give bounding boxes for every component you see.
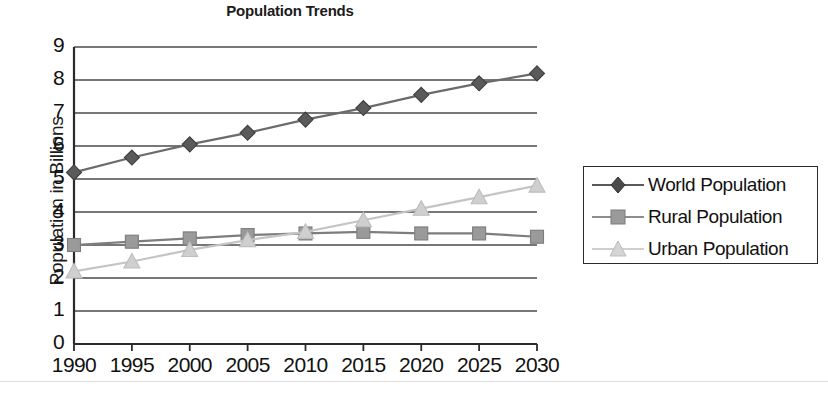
x-tick-label-1990: 1990 [44, 353, 104, 377]
legend-item-urban[interactable]: Urban Population [584, 233, 817, 265]
legend-item-rural[interactable]: Rural Population [584, 201, 817, 233]
data-point [529, 178, 545, 193]
legend-label-urban: Urban Population [648, 238, 788, 260]
y-tick-label-3: 3 [38, 231, 64, 255]
x-tick-label-2025: 2025 [449, 353, 509, 377]
gridlines [74, 47, 537, 344]
data-point [531, 230, 544, 243]
legend-label-world: World Population [648, 174, 786, 196]
x-tick-label-2015: 2015 [333, 353, 393, 377]
y-tick-label-0: 0 [38, 330, 64, 354]
series-world-population [67, 66, 545, 180]
legend-label-rural: Rural Population [648, 206, 782, 228]
chart-legend: World Population Rural Population Urban … [583, 166, 818, 264]
data-point [68, 239, 81, 252]
data-point [415, 227, 428, 240]
y-tick-label-4: 4 [38, 198, 64, 222]
x-tick-label-2020: 2020 [391, 353, 451, 377]
x-tick-label-2000: 2000 [160, 353, 220, 377]
data-point [530, 66, 545, 81]
data-point [473, 227, 486, 240]
legend-item-world[interactable]: World Population [584, 169, 817, 201]
world-series-swatch-icon [590, 173, 646, 197]
y-tick-label-2: 2 [38, 264, 64, 288]
y-tick-label-7: 7 [38, 99, 64, 123]
y-tick-label-1: 1 [38, 297, 64, 321]
data-point [182, 137, 197, 152]
axis-lines [74, 47, 537, 344]
data-series-layer [66, 66, 545, 278]
x-tick-label-2005: 2005 [218, 353, 278, 377]
scan-edge-line [0, 381, 828, 382]
y-tick-label-9: 9 [38, 33, 64, 57]
data-point [240, 125, 255, 140]
y-tick-label-6: 6 [38, 132, 64, 156]
data-point [67, 165, 82, 180]
rural-series-swatch-icon [590, 205, 646, 229]
data-point [298, 112, 313, 127]
x-tick-label-1995: 1995 [102, 353, 162, 377]
data-point [125, 235, 138, 248]
population-trends-chart: Population Trends Population in Billions… [0, 0, 828, 393]
y-tick-label-5: 5 [38, 165, 64, 189]
y-tick-label-8: 8 [38, 66, 64, 90]
data-point [124, 150, 139, 165]
urban-series-swatch-icon [590, 237, 646, 261]
data-point [414, 87, 429, 102]
data-point [472, 76, 487, 91]
x-tick-label-2030: 2030 [507, 353, 567, 377]
x-tick-label-2010: 2010 [276, 353, 336, 377]
